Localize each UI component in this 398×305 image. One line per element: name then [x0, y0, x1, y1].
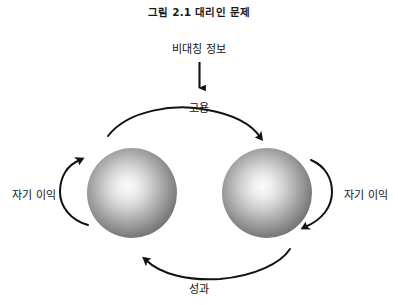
self-interest-left-arrow: [60, 160, 88, 225]
principal-sphere: [87, 148, 177, 238]
agency-problem-figure: 그림 2.1 대리인 문제: [0, 0, 398, 305]
performance-arrow: [146, 249, 290, 279]
self-interest-left-label: 자기 이익: [12, 186, 56, 202]
employment-label: 고용: [0, 99, 398, 115]
agent-sphere: [222, 148, 312, 238]
asymmetric-information-label: 비대칭 정보: [0, 40, 398, 56]
self-interest-right-label: 자기 이익: [344, 186, 388, 202]
performance-label: 성과: [0, 280, 398, 296]
